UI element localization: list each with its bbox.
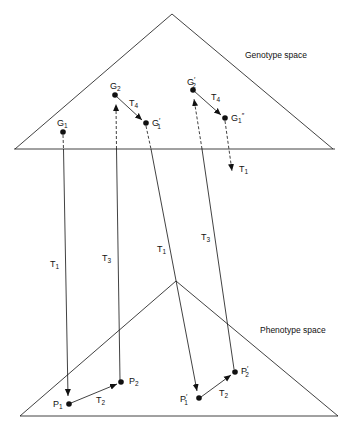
label-t3-left: T3 bbox=[102, 253, 112, 264]
point-p2 bbox=[118, 379, 124, 385]
label-g2: G2 bbox=[110, 81, 121, 92]
label-g1-prime: G′1 bbox=[152, 117, 161, 130]
arrow-t2-p1-to-p2 bbox=[71, 384, 117, 403]
point-p1-prime bbox=[196, 395, 202, 401]
label-t4-right: T4 bbox=[211, 92, 221, 103]
arrow-t3-p2-to-g2 bbox=[116, 104, 120, 380]
genotype-space-label: Genotype space bbox=[245, 50, 307, 60]
label-p2: P2 bbox=[129, 376, 139, 387]
label-g2-prime: G′2 bbox=[187, 76, 196, 89]
label-t3-right: T3 bbox=[201, 232, 211, 243]
arrow-t1-g1-to-p1 bbox=[63, 135, 68, 396]
label-p2-prime: P′2 bbox=[241, 365, 249, 378]
arrow-t3-p2prime-to-g2prime bbox=[194, 99, 234, 369]
label-g1-double-prime: G1″ bbox=[231, 112, 245, 124]
point-p2-prime bbox=[232, 369, 238, 375]
point-g1-double-prime bbox=[222, 115, 228, 121]
point-p1 bbox=[66, 401, 72, 407]
point-g1 bbox=[60, 129, 66, 135]
arrow-t1-g1doubleprime-out bbox=[225, 121, 232, 171]
point-g1-prime bbox=[143, 120, 149, 126]
arrow-t1-g1prime-to-p1prime bbox=[146, 126, 197, 391]
genotype-phenotype-diagram: Genotype space Phenotype space bbox=[0, 0, 351, 431]
point-g2 bbox=[112, 92, 118, 98]
arrow-t4-g2prime-to-g1doubleprime bbox=[194, 91, 221, 115]
label-t1-out: T1 bbox=[239, 164, 249, 175]
label-t2-right: T2 bbox=[219, 388, 229, 399]
label-p1-prime: P′1 bbox=[180, 393, 188, 406]
label-t1-left: T1 bbox=[50, 259, 60, 270]
label-t4-left: T4 bbox=[129, 98, 139, 109]
label-p1: P1 bbox=[53, 399, 63, 410]
phenotype-space-label: Phenotype space bbox=[260, 325, 326, 335]
label-t2-left: T2 bbox=[96, 395, 106, 406]
genotype-space-triangle bbox=[14, 14, 335, 149]
label-t1-middle: T1 bbox=[157, 244, 167, 255]
label-g1: G1 bbox=[57, 118, 68, 129]
